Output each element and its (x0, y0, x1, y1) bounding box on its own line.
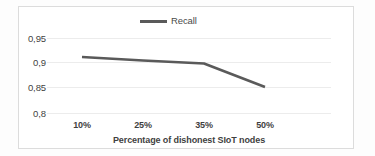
legend-label-recall: Recall (171, 16, 197, 26)
legend-line-swatch-recall (140, 20, 167, 23)
y-tick-label-0: 0,95 (28, 33, 46, 44)
x-axis: 10% 25% 35% 50% (47, 120, 331, 133)
plot-area (47, 33, 331, 118)
recall-line-chart: Recall 0,95 0,9 0,85 0,8 10% 25% 35% 50%… (0, 0, 375, 156)
y-tick-label-1: 0,9 (33, 57, 46, 68)
series-recall (47, 33, 331, 118)
x-tick-label-0: 10% (73, 120, 91, 130)
x-tick-label-3: 50% (256, 120, 274, 130)
recall-line-path (82, 57, 265, 87)
x-tick-label-1: 25% (134, 120, 152, 130)
chart-legend: Recall (140, 14, 197, 28)
y-tick-label-3: 0,8 (33, 108, 46, 119)
y-axis: 0,95 0,9 0,85 0,8 (12, 33, 46, 118)
x-axis-title: Percentage of dishonest SIoT nodes (47, 135, 331, 145)
x-tick-label-2: 35% (195, 120, 213, 130)
y-tick-label-2: 0,85 (28, 82, 46, 93)
